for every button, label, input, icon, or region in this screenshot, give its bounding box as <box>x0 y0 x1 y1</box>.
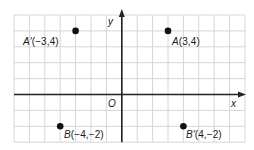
point-a-prime-dot <box>72 28 79 35</box>
point-label-b: B(−4,−2) <box>64 130 104 140</box>
point-coords: (−3,4) <box>32 36 59 47</box>
point-name: B <box>64 129 71 140</box>
y-axis-label: y <box>108 17 113 27</box>
coordinate-plane: y x O A′(−3,4) A(3,4) B(−4,−2) B′(4,−2) <box>0 0 254 150</box>
point-name: A <box>172 36 179 47</box>
x-axis-label: x <box>231 99 236 109</box>
y-axis-arrow-icon <box>119 9 125 17</box>
point-label-a-prime: A′(−3,4) <box>23 37 59 47</box>
origin-label: O <box>108 99 116 109</box>
point-a-dot <box>165 28 172 35</box>
point-label-b-prime: B′(4,−2) <box>186 130 222 140</box>
point-coords: (4,−2) <box>195 129 222 140</box>
grid-svg <box>0 0 254 150</box>
point-b-dot <box>57 123 64 130</box>
point-coords: (−4,−2) <box>71 129 104 140</box>
point-name: A′ <box>23 36 32 47</box>
point-label-a: A(3,4) <box>172 37 200 47</box>
point-name: B′ <box>186 129 195 140</box>
point-coords: (3,4) <box>179 36 200 47</box>
